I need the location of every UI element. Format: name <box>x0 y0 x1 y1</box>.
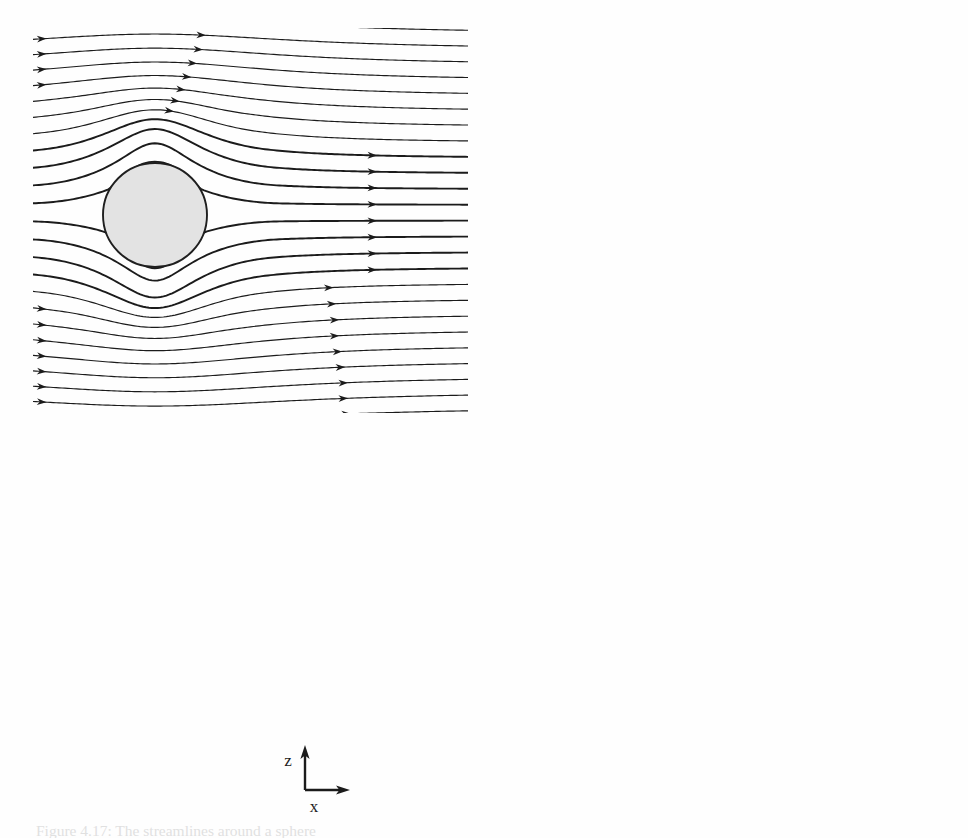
streamline <box>33 411 468 413</box>
streamline <box>33 364 468 378</box>
streamline <box>33 379 468 391</box>
panel-top-left <box>33 28 468 413</box>
sphere-body <box>103 163 207 267</box>
streamline <box>33 28 468 30</box>
streamline <box>33 48 468 62</box>
streamline <box>33 237 468 281</box>
streamline <box>33 253 468 298</box>
streamline <box>33 62 468 78</box>
x-axis-label: x <box>310 797 319 816</box>
axis-indicator: z x <box>262 742 382 822</box>
z-axis-arrow <box>300 745 309 790</box>
panel-top-right <box>508 28 945 413</box>
figure-caption: Figure 4.17: The streamlines around a sp… <box>36 822 936 838</box>
panel-top-left-canvas <box>33 28 468 413</box>
streamline <box>33 348 468 364</box>
streamline <box>33 76 468 94</box>
streamline <box>33 119 468 157</box>
streamline <box>33 332 468 351</box>
streamline <box>33 88 468 109</box>
z-axis-label: z <box>284 751 292 770</box>
streamline <box>33 316 468 338</box>
streamline <box>33 269 468 309</box>
figure-root: z x Figure 4.17: The streamlines around … <box>0 0 968 838</box>
streamline <box>33 395 468 406</box>
streamline <box>33 143 468 188</box>
streamline-group <box>33 28 468 413</box>
x-axis-arrow <box>305 785 350 794</box>
streamline <box>33 34 468 46</box>
